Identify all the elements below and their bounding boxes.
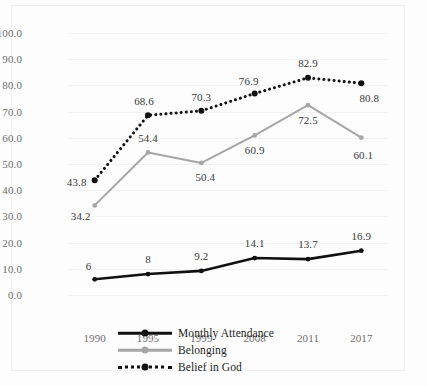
y-axis-tick-label: 70.0 — [0, 106, 22, 118]
data-point-label: 76.9 — [239, 75, 259, 87]
x-axis-tick-label: 1990 — [83, 332, 105, 344]
x-axis-tick-label: 2017 — [350, 332, 372, 344]
legend-item-belief-in-god[interactable]: Belief in God — [118, 359, 348, 375]
gridline — [68, 216, 388, 217]
legend-label-belief-in-god: Belief in God — [178, 361, 242, 373]
data-point-label: 60.9 — [245, 144, 265, 156]
data-point-label: 60.1 — [354, 149, 374, 161]
gridline — [68, 164, 388, 165]
data-point-label: 16.9 — [352, 230, 372, 242]
data-point-label: 54.4 — [138, 132, 158, 144]
gridline — [68, 85, 388, 86]
data-point-label: 8 — [145, 253, 151, 265]
legend-label-monthly-attendance: Monthly Attendance — [178, 327, 274, 339]
gridline — [68, 33, 388, 34]
gridline — [68, 269, 388, 270]
legend-key-belonging — [118, 343, 172, 357]
gridline — [68, 295, 388, 296]
data-point-label: 50.4 — [196, 171, 216, 183]
line-chart: 0.010.020.030.040.050.060.070.080.090.01… — [0, 0, 427, 386]
data-point-label: 6 — [86, 260, 92, 272]
y-axis-tick-label: 0.0 — [0, 289, 22, 301]
y-axis-tick-label: 20.0 — [0, 237, 22, 249]
legend-label-belonging: Belonging — [178, 344, 227, 356]
y-axis-tick-label: 100.0 — [0, 27, 22, 39]
plot-area: 0.010.020.030.040.050.060.070.080.090.01… — [68, 33, 388, 295]
data-point-label: 72.5 — [298, 114, 318, 126]
data-point-label: 82.9 — [298, 57, 318, 69]
data-point-label: 68.6 — [134, 95, 154, 107]
data-point-label: 34.2 — [71, 210, 91, 222]
y-axis-tick-label: 30.0 — [0, 210, 22, 222]
y-axis-tick-label: 10.0 — [0, 263, 22, 275]
y-axis-tick-label: 60.0 — [0, 132, 22, 144]
gridline — [68, 112, 388, 113]
y-axis-tick-label: 50.0 — [0, 158, 22, 170]
gridline — [68, 138, 388, 139]
legend-item-belonging[interactable]: Belonging — [118, 342, 348, 358]
data-point-label: 70.3 — [192, 91, 212, 103]
gridline — [68, 59, 388, 60]
legend-key-monthly-attendance — [118, 326, 172, 340]
data-point-label: 43.8 — [67, 176, 87, 188]
legend-key-belief-in-god — [118, 360, 172, 374]
y-axis-tick-label: 90.0 — [0, 53, 22, 65]
gridline — [68, 243, 388, 244]
data-point-label: 9.2 — [194, 250, 208, 262]
y-axis-tick-label: 40.0 — [0, 184, 22, 196]
data-point-label: 80.8 — [360, 92, 380, 104]
gridline — [68, 190, 388, 191]
y-axis-tick-label: 80.0 — [0, 79, 22, 91]
legend-item-monthly-attendance[interactable]: Monthly Attendance — [118, 325, 348, 341]
chart-legend: Monthly Attendance Belonging Belief in G… — [118, 325, 348, 376]
data-point-label: 14.1 — [245, 237, 265, 249]
data-point-label: 13.7 — [298, 238, 318, 250]
